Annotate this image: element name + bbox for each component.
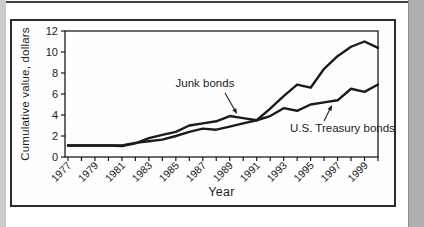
x-tick-label: 1999 bbox=[345, 159, 370, 184]
page: { "page": { "top_rule_color": "#414141",… bbox=[0, 0, 424, 227]
u-s-treasury-bonds-line bbox=[68, 85, 378, 146]
x-tick-label: 1981 bbox=[102, 159, 127, 184]
chart-canvas: 0246810121977197919811983198519871989199… bbox=[12, 21, 394, 205]
x-tick-label: 1985 bbox=[156, 159, 181, 184]
x-tick-label: 1989 bbox=[210, 159, 235, 184]
x-axis-title: Year bbox=[65, 185, 378, 199]
x-tick-label: 1987 bbox=[183, 159, 208, 184]
junk-bonds-annotation: Junk bonds bbox=[176, 77, 235, 89]
x-tick-label: 1983 bbox=[129, 159, 154, 184]
y-tick-label: 8 bbox=[52, 67, 58, 79]
x-tick-label: 1979 bbox=[75, 159, 100, 184]
y-tick-label: 12 bbox=[46, 25, 58, 37]
figure-box: 0246810121977197919811983198519871989199… bbox=[10, 19, 396, 207]
top-rule bbox=[0, 1, 410, 3]
y-tick-label: 6 bbox=[52, 88, 58, 100]
y-tick-label: 2 bbox=[52, 130, 58, 142]
x-tick-label: 1991 bbox=[237, 159, 262, 184]
plot-frame bbox=[65, 31, 378, 157]
us-treasury-bonds-annotation: U.S. Treasury bonds bbox=[290, 122, 394, 134]
y-tick-label: 0 bbox=[52, 151, 58, 163]
left-margin-strip bbox=[0, 0, 6, 227]
x-tick-label: 1995 bbox=[291, 159, 316, 184]
right-margin-strip bbox=[408, 0, 424, 227]
x-tick-label: 1997 bbox=[318, 159, 343, 184]
y-tick-label: 4 bbox=[52, 109, 58, 121]
y-axis-title: Cumulative value, dollars bbox=[14, 31, 36, 157]
y-tick-label: 10 bbox=[46, 46, 58, 58]
x-tick-label: 1993 bbox=[264, 159, 289, 184]
